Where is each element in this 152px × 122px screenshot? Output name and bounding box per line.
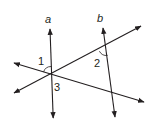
transversal-rising [14, 26, 141, 93]
line-b [103, 28, 115, 117]
angle-3-label: 3 [54, 81, 60, 93]
line-a-label: a [45, 13, 51, 25]
geometry-diagram: a b 1 2 3 [0, 0, 152, 122]
angle-2-label: 2 [94, 57, 100, 69]
angle-1-arc [44, 66, 52, 72]
angle-1-label: 1 [38, 55, 44, 67]
line-b-label: b [97, 12, 103, 24]
